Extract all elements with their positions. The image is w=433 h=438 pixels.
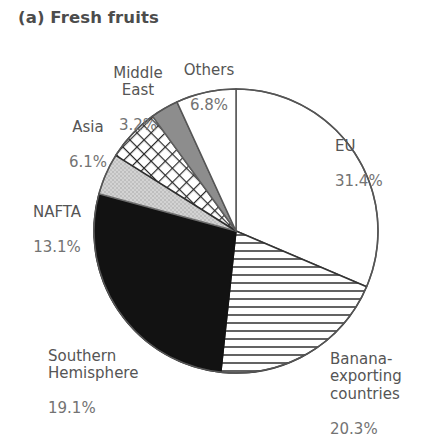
slice-label-banana-exporting-countries-name: Banana- exporting countries [330, 351, 428, 404]
slice-label-others: Others 6.8% [178, 44, 240, 132]
slice-label-asia-name: Asia [59, 119, 117, 137]
slice-label-banana-exporting-countries-value: 20.3% [330, 421, 428, 438]
slice-label-nafta-value: 13.1% [22, 239, 92, 257]
slice-label-southern-hemisphere: Southern Hemisphere 19.1% [48, 330, 166, 435]
slice-label-nafta: NAFTA 13.1% [22, 186, 92, 274]
slice-label-middle-east-name: Middle East [107, 65, 169, 100]
slice-label-asia-value: 6.1% [59, 154, 117, 172]
slice-label-eu: EU 31.4% [335, 120, 405, 208]
slice-label-others-name: Others [178, 62, 240, 80]
slice-label-eu-value: 31.4% [335, 173, 405, 191]
slice-label-asia: Asia 6.1% [59, 101, 117, 189]
slice-label-eu-name: EU [335, 138, 405, 156]
slice-label-nafta-name: NAFTA [22, 204, 92, 222]
slice-label-banana-exporting-countries: Banana- exporting countries 20.3% [330, 333, 428, 438]
slice-label-southern-hemisphere-name: Southern Hemisphere [48, 348, 166, 383]
slice-label-others-value: 6.8% [178, 97, 240, 115]
slice-label-southern-hemisphere-value: 19.1% [48, 400, 166, 418]
